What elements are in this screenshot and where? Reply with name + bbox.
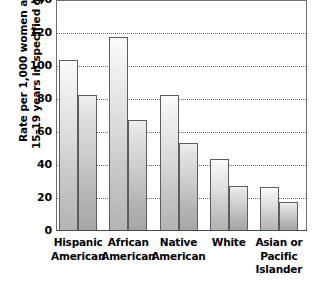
bar bbox=[109, 37, 128, 230]
x-category-label-line: American bbox=[147, 250, 209, 264]
bar bbox=[260, 187, 279, 230]
bar-group bbox=[109, 0, 147, 230]
bar bbox=[229, 186, 248, 230]
bar-group bbox=[160, 0, 198, 230]
x-category-label: Asian orPacificIslander bbox=[248, 236, 310, 277]
bar bbox=[160, 95, 179, 230]
bar-chart: Rate per 1,000 women aged 15–19 years in… bbox=[0, 0, 315, 294]
bars-layer bbox=[56, 0, 307, 230]
x-axis-line bbox=[56, 230, 307, 231]
bar bbox=[128, 120, 147, 230]
x-category-label-line: Pacific bbox=[248, 250, 310, 264]
bar-group bbox=[210, 0, 248, 230]
y-tick-label-100: 100 bbox=[0, 60, 52, 71]
x-category-label-line: Asian or bbox=[248, 236, 310, 250]
y-tick-label-20: 20 bbox=[0, 192, 52, 203]
y-axis-tick-labels: 020406080100120140 bbox=[0, 0, 52, 294]
bar bbox=[59, 60, 78, 230]
y-tick-label-60: 60 bbox=[0, 126, 52, 137]
bar-group bbox=[260, 0, 298, 230]
y-tick-label-120: 120 bbox=[0, 27, 52, 38]
bar-group bbox=[59, 0, 97, 230]
y-tick-label-0: 0 bbox=[0, 225, 52, 236]
bar bbox=[78, 95, 97, 230]
y-tick-label-40: 40 bbox=[0, 159, 52, 170]
y-tick-label-140: 140 bbox=[0, 0, 52, 5]
bar bbox=[210, 159, 229, 230]
x-category-label-line: Islander bbox=[248, 263, 310, 277]
x-axis-category-labels: HispanicAmericanAfricanAmericanNativeAme… bbox=[56, 236, 307, 294]
bar bbox=[179, 143, 198, 230]
y-tick-label-80: 80 bbox=[0, 93, 52, 104]
bar bbox=[279, 202, 298, 230]
